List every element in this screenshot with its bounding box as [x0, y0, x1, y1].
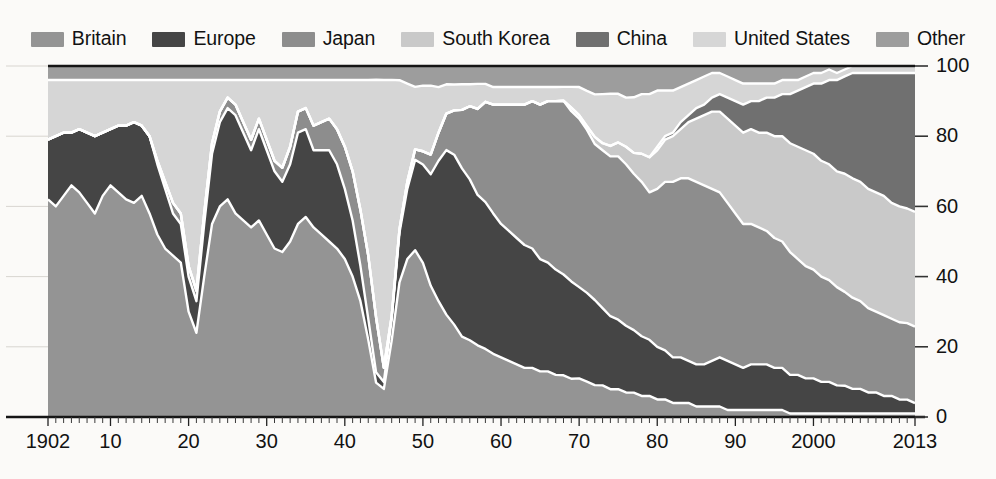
xtick-label-1940: 40: [334, 430, 356, 452]
xtick-label-1930: 30: [256, 430, 278, 452]
ytick-label-100: 100: [936, 54, 969, 76]
ytick-label-20: 20: [936, 335, 958, 357]
ytick-label-80: 80: [936, 124, 958, 146]
chart-root: BritainEuropeJapanSouth KoreaChinaUnited…: [0, 0, 996, 479]
xtick-label-1990: 90: [724, 430, 746, 452]
xtick-label-1902: 1902: [26, 430, 71, 452]
ytick-label-40: 40: [936, 265, 958, 287]
xtick-label-1980: 80: [646, 430, 668, 452]
plot-area-wrapper: 1902102030405060708090200020130204060801…: [0, 0, 996, 479]
xtick-label-2000: 2000: [791, 430, 836, 452]
ytick-label-0: 0: [936, 405, 947, 427]
xtick-label-1950: 50: [412, 430, 434, 452]
xtick-label-2013: 2013: [893, 430, 938, 452]
stacked-area-chart: 1902102030405060708090200020130204060801…: [0, 0, 996, 479]
xtick-label-1970: 70: [568, 430, 590, 452]
xtick-label-1910: 10: [99, 430, 121, 452]
xtick-label-1920: 20: [177, 430, 199, 452]
xtick-label-1960: 60: [490, 430, 512, 452]
ytick-label-60: 60: [936, 195, 958, 217]
